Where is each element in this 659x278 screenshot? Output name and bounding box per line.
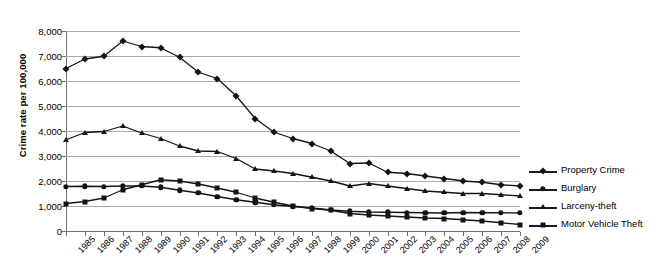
data-point-marker (120, 187, 125, 192)
data-point-marker (422, 188, 428, 193)
data-point-marker (252, 166, 258, 171)
data-point-marker (101, 196, 106, 201)
x-tick-label: 2007 (492, 234, 513, 255)
data-point-marker (404, 186, 410, 191)
data-point-marker (480, 219, 485, 224)
legend-item[interactable]: Motor Vehicle Theft (527, 217, 659, 234)
x-tick-label: 1993 (227, 234, 248, 255)
legend-marker-circle-icon (540, 186, 545, 191)
data-point-marker (309, 206, 314, 211)
data-point-marker (366, 181, 372, 186)
data-point-marker (461, 217, 466, 222)
x-tick-label: 1992 (208, 234, 229, 255)
data-point-marker (498, 192, 504, 197)
data-point-marker (328, 208, 333, 213)
legend-label: Larceny-theft (561, 200, 616, 211)
data-point-marker (272, 200, 277, 205)
series-line (66, 180, 520, 225)
y-tick-label: 5,000 (38, 101, 62, 112)
x-tick-label: 1987 (114, 234, 135, 255)
data-point-marker (82, 199, 87, 204)
data-point-marker (290, 171, 296, 176)
data-point-marker (139, 130, 145, 135)
legend-marker-square-icon (541, 223, 546, 228)
data-point-marker (309, 174, 315, 179)
data-point-marker (517, 193, 523, 198)
data-point-marker (518, 222, 523, 227)
x-tick-label: 1985 (76, 234, 97, 255)
y-tick-label: 1,000 (38, 201, 62, 212)
data-point-marker (177, 179, 182, 184)
legend-marker-triangle-icon (540, 204, 546, 209)
x-tick-label: 2008 (511, 234, 532, 255)
data-point-marker (253, 196, 258, 201)
plot-area (66, 31, 520, 231)
y-tick-label: 4,000 (38, 126, 62, 137)
x-tick-label: 1999 (341, 234, 362, 255)
chart-title-clipped (14, 0, 614, 5)
x-tick-label: 1990 (170, 234, 191, 255)
data-point-marker (385, 214, 390, 219)
data-point-marker (517, 210, 522, 215)
x-tick-label: 2002 (397, 234, 418, 255)
data-point-marker (158, 136, 164, 141)
data-point-marker (196, 182, 201, 187)
legend-marker-diamond-icon (539, 167, 546, 174)
data-point-marker (177, 143, 183, 148)
x-tick-label: 2001 (379, 234, 400, 255)
y-tick-label: 8,000 (38, 26, 62, 37)
data-point-marker (82, 130, 88, 135)
legend-item[interactable]: Burglary (527, 181, 659, 198)
x-tick-label: 2004 (435, 234, 456, 255)
x-tick-label: 1986 (95, 234, 116, 255)
x-tick-label: 1997 (303, 234, 324, 255)
legend-item[interactable]: Property Crime (527, 163, 659, 180)
series-lines (66, 31, 520, 231)
data-point-marker (214, 149, 220, 154)
data-point-marker (195, 148, 201, 153)
y-tick-label: 7,000 (38, 51, 62, 62)
legend-label: Property Crime (561, 164, 625, 175)
chart-legend: Property CrimeBurglaryLarceny-theftMotor… (527, 163, 659, 235)
legend-item[interactable]: Larceny-theft (527, 199, 659, 216)
data-point-marker (479, 191, 485, 196)
x-tick-label: 2009 (530, 234, 551, 255)
x-tick-label: 1998 (322, 234, 343, 255)
series-line (66, 41, 520, 186)
data-point-marker (64, 201, 69, 206)
x-tick-label: 2006 (473, 234, 494, 255)
data-point-marker (442, 216, 447, 221)
x-tick-label: 1994 (246, 234, 267, 255)
data-point-marker (347, 183, 353, 188)
data-point-marker (366, 213, 371, 218)
x-tick-label: 1995 (265, 234, 286, 255)
data-point-marker (441, 189, 447, 194)
data-point-marker (423, 216, 428, 221)
data-point-marker (347, 211, 352, 216)
data-point-marker (404, 215, 409, 220)
x-tick-label: 2003 (416, 234, 437, 255)
x-axis-tick-labels: 1985198619871988198919901991199219931994… (0, 234, 659, 278)
data-point-marker (158, 177, 163, 182)
data-point-marker (328, 178, 334, 183)
data-point-marker (499, 220, 504, 225)
crime-rate-line-chart: Crime rate per 100,000 01,0002,0003,0004… (0, 0, 659, 278)
legend-label: Burglary (561, 182, 596, 193)
data-point-marker (233, 156, 239, 161)
x-tick-label: 2005 (454, 234, 475, 255)
x-tick-label: 1988 (133, 234, 154, 255)
series-line (66, 186, 520, 213)
y-tick-label: 3,000 (38, 151, 62, 162)
data-point-marker (271, 168, 277, 173)
data-point-marker (234, 190, 239, 195)
legend-label: Motor Vehicle Theft (561, 218, 643, 229)
data-point-marker (120, 123, 126, 128)
data-point-marker (291, 204, 296, 209)
y-tick-label: 2,000 (38, 176, 62, 187)
data-point-marker (63, 137, 69, 142)
x-tick-label: 1989 (152, 234, 173, 255)
data-point-marker (215, 186, 220, 191)
data-point-marker (101, 129, 107, 134)
data-point-marker (139, 182, 144, 187)
data-point-marker (460, 191, 466, 196)
